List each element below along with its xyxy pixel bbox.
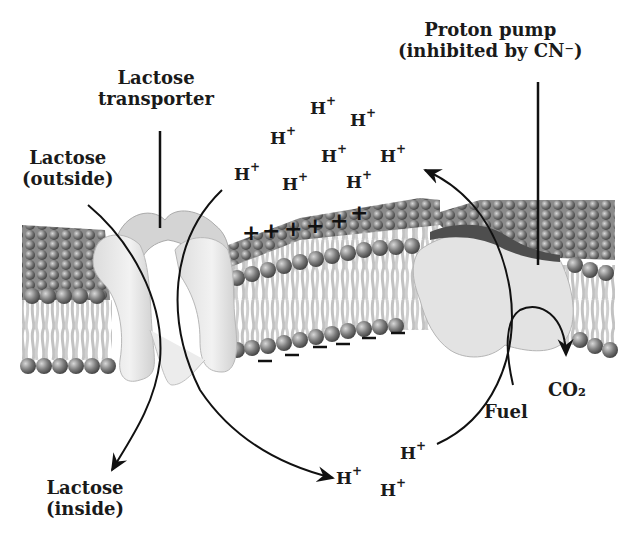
label-co2: CO₂ xyxy=(548,380,586,401)
label-proton-pump: Proton pump(inhibited by CN⁻) xyxy=(398,20,583,61)
positive-charge: + xyxy=(262,218,280,243)
proton-inside: H+ xyxy=(336,466,362,488)
membrane-diagram: + + + + + + xyxy=(0,0,641,542)
lactose-transporter xyxy=(93,211,237,385)
proton-outside: H+ xyxy=(282,172,308,194)
proton-outside: H+ xyxy=(310,96,336,118)
label-lactose-inside: Lactose(inside) xyxy=(46,478,124,519)
label-lactose-transporter: Lactosetransporter xyxy=(98,68,214,109)
proton-inside: H+ xyxy=(380,478,406,500)
proton-outside: H+ xyxy=(270,126,296,148)
positive-charge: + xyxy=(350,200,368,225)
positive-charge: + xyxy=(242,220,260,245)
label-lactose-outside: Lactose(outside) xyxy=(22,148,113,189)
proton-outside: H+ xyxy=(234,162,260,184)
proton-outside: H+ xyxy=(321,144,347,166)
proton-outside: H+ xyxy=(380,144,406,166)
label-fuel: Fuel xyxy=(484,402,528,423)
positive-charge: + xyxy=(284,216,302,241)
positive-charge: + xyxy=(330,208,348,233)
proton-inside: H+ xyxy=(400,441,426,463)
positive-charge: + xyxy=(306,213,324,238)
proton-outside: H+ xyxy=(350,108,376,130)
proton-outside: H+ xyxy=(346,170,372,192)
